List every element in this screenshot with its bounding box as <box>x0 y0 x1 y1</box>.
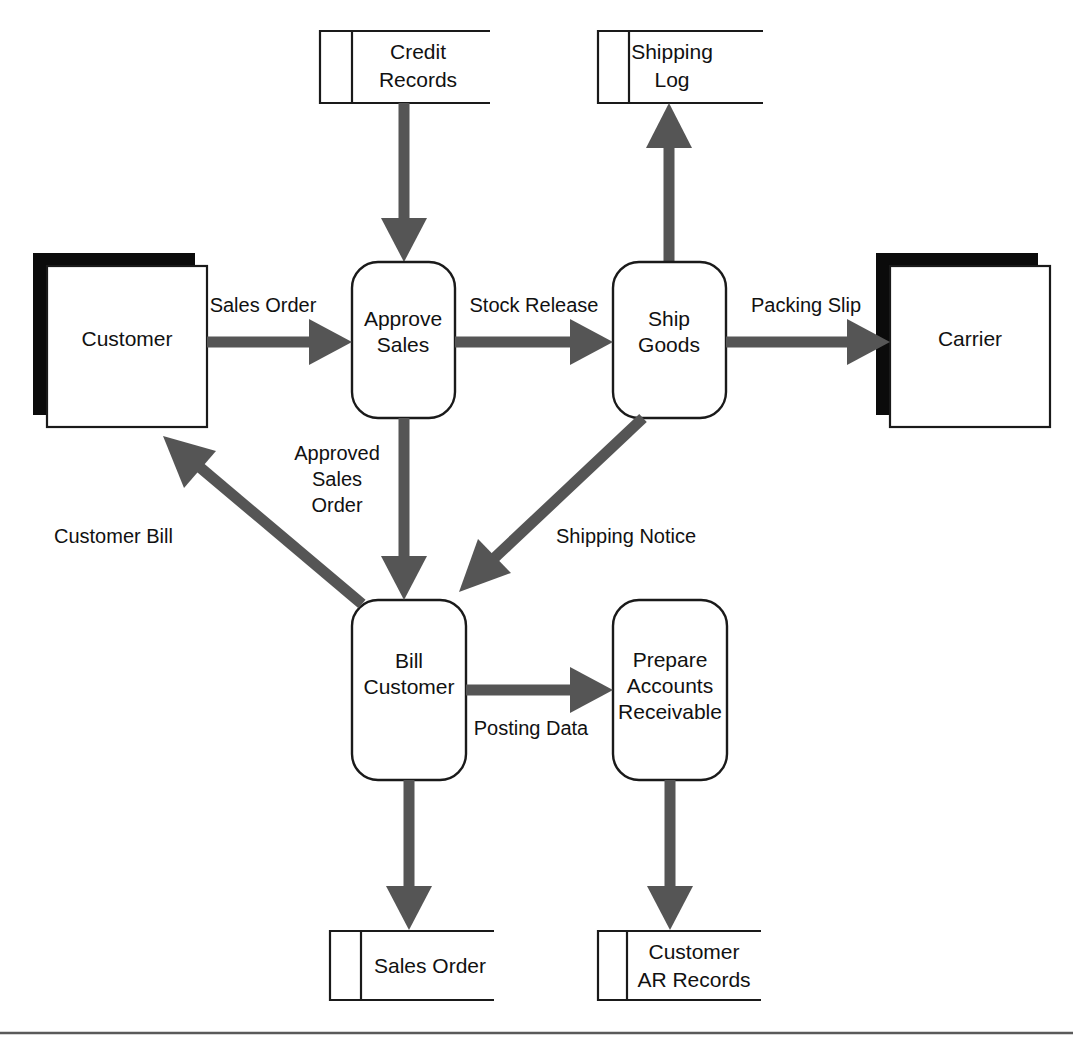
data-flow-approved-sales-order: Approved Sales Order <box>294 418 427 600</box>
data-flow-shipping-notice: Shipping Notice <box>459 418 696 592</box>
data-flow-shipping-log-entry <box>646 103 692 262</box>
process-bill-customer-label-line-2: Customer <box>363 675 454 698</box>
data-flow-sales-order-label: Sales Order <box>210 294 317 316</box>
data-flow-stock-release: Stock Release <box>455 294 613 365</box>
process-ship-goods-label-line-1: Ship <box>648 307 690 330</box>
diagram-canvas: Credit Records Shipping Log Customer Car… <box>0 0 1073 1051</box>
external-entity-carrier: Carrier <box>876 253 1050 427</box>
process-bill-customer: Bill Customer <box>352 600 466 780</box>
data-flow-diagram: Credit Records Shipping Log Customer Car… <box>0 0 1073 1051</box>
external-entity-customer: Customer <box>33 253 207 427</box>
data-store-credit-records-label-line-2: Records <box>379 68 457 91</box>
data-flow-posting-data-label: Posting Data <box>474 717 589 739</box>
data-flow-packing-slip-label: Packing Slip <box>751 294 861 316</box>
process-prepare-accounts-receivable: Prepare Accounts Receivable <box>613 600 727 780</box>
data-flow-shipping-notice-label: Shipping Notice <box>556 525 696 547</box>
data-flow-approved-sales-order-label-line-1: Approved <box>294 442 380 464</box>
data-store-shipping-log-label-line-1: Shipping <box>631 40 713 63</box>
data-flow-approved-sales-order-label-line-2: Sales <box>312 468 362 490</box>
data-flow-sales-order-record <box>386 780 432 930</box>
data-flow-credit-check <box>381 103 427 262</box>
data-flow-customer-bill-label: Customer Bill <box>54 525 173 547</box>
data-store-sales-order: Sales Order <box>330 931 494 1000</box>
data-store-customer-ar-records-label-line-2: AR Records <box>637 968 750 991</box>
data-flow-sales-order: Sales Order <box>207 294 352 365</box>
data-store-credit-records: Credit Records <box>320 31 490 103</box>
data-store-customer-ar-records-label-line-1: Customer <box>648 940 739 963</box>
data-store-shipping-log: Shipping Log <box>598 31 763 103</box>
process-prepare-accounts-receivable-label-line-1: Prepare <box>633 648 708 671</box>
data-store-customer-ar-records: Customer AR Records <box>598 931 761 1000</box>
data-store-shipping-log-label-line-2: Log <box>654 68 689 91</box>
process-approve-sales: Approve Sales <box>352 262 455 418</box>
data-flow-posting-data: Posting Data <box>466 667 613 739</box>
data-flow-packing-slip: Packing Slip <box>726 294 890 365</box>
data-store-credit-records-label-line-1: Credit <box>390 40 446 63</box>
process-ship-goods: Ship Goods <box>613 262 726 418</box>
data-flow-stock-release-label: Stock Release <box>470 294 599 316</box>
process-ship-goods-label-line-2: Goods <box>638 333 700 356</box>
data-store-sales-order-label-line-1: Sales Order <box>374 954 486 977</box>
process-approve-sales-label-line-1: Approve <box>364 307 442 330</box>
process-prepare-accounts-receivable-label-line-3: Receivable <box>618 700 722 723</box>
process-approve-sales-label-line-2: Sales <box>377 333 430 356</box>
external-entity-carrier-label: Carrier <box>938 327 1002 350</box>
data-flow-approved-sales-order-label-line-3: Order <box>311 494 362 516</box>
external-entity-customer-label: Customer <box>81 327 172 350</box>
data-flow-ar-record <box>647 780 693 930</box>
process-prepare-accounts-receivable-label-line-2: Accounts <box>627 674 713 697</box>
process-bill-customer-label-line-1: Bill <box>395 649 423 672</box>
